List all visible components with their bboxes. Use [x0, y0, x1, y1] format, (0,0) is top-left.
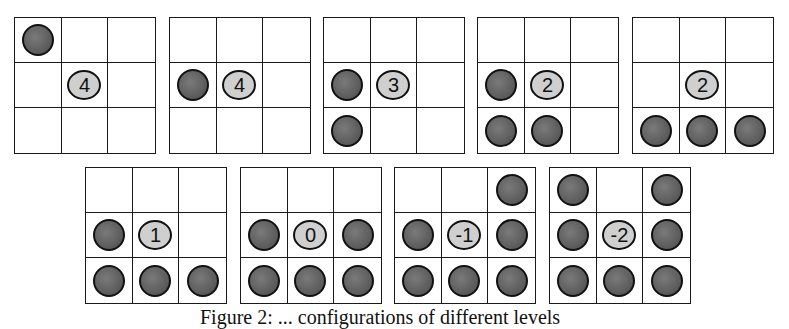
board-grid: -2 — [549, 167, 691, 304]
dark-stone-icon — [496, 265, 528, 297]
board-cell — [525, 108, 572, 153]
board-cell — [417, 63, 464, 108]
board-cell — [263, 18, 310, 63]
dark-stone-icon — [448, 265, 480, 297]
board-cell — [550, 168, 597, 213]
figure-caption: Figure 2: ... configurations of differen… — [200, 306, 560, 329]
board-cell — [633, 108, 680, 153]
board-cell — [680, 18, 727, 63]
dark-stone-icon — [496, 174, 528, 206]
board-cell — [633, 18, 680, 63]
board-cell — [179, 258, 226, 303]
dark-stone-icon — [531, 115, 563, 147]
board-cell — [478, 63, 525, 108]
dark-stone-icon — [248, 219, 280, 251]
board-cell — [263, 63, 310, 108]
board-cell — [643, 213, 690, 258]
board-cell — [62, 108, 109, 153]
level-marker: 3 — [376, 70, 410, 100]
board-cell — [597, 258, 644, 303]
board-cell — [371, 18, 418, 63]
board-cell — [86, 168, 133, 213]
board-cell — [478, 108, 525, 153]
board-cell — [170, 63, 217, 108]
dark-stone-icon — [93, 219, 125, 251]
board-cell — [417, 18, 464, 63]
board-cell — [395, 258, 442, 303]
board-cell — [133, 168, 180, 213]
dark-stone-icon — [485, 115, 517, 147]
board-grid: 4 — [169, 17, 311, 154]
board-cell — [417, 108, 464, 153]
board-cell — [133, 258, 180, 303]
board-cell: 4 — [62, 63, 109, 108]
board-cell — [15, 63, 62, 108]
board-cell — [324, 108, 371, 153]
board-cell — [179, 168, 226, 213]
dark-stone-icon — [331, 69, 363, 101]
board-cell — [726, 18, 773, 63]
board-cell — [334, 168, 381, 213]
board-cell: -1 — [442, 213, 489, 258]
board-cell — [488, 168, 535, 213]
board-cell — [179, 213, 226, 258]
board-cell — [288, 258, 335, 303]
board-cell — [643, 258, 690, 303]
board-grid: 2 — [477, 17, 619, 154]
dark-stone-icon — [651, 174, 683, 206]
board-cell — [62, 18, 109, 63]
board-cell — [633, 63, 680, 108]
board-cell: 0 — [288, 213, 335, 258]
level-marker: 2 — [685, 70, 719, 100]
dark-stone-icon — [557, 174, 589, 206]
dark-stone-icon — [485, 69, 517, 101]
board-grid: 2 — [632, 17, 774, 154]
board-cell — [15, 18, 62, 63]
dark-stone-icon — [342, 265, 374, 297]
board-grid: 1 — [85, 167, 227, 304]
dark-stone-icon — [93, 265, 125, 297]
board-cell — [170, 18, 217, 63]
board-cell — [217, 18, 264, 63]
board-cell: 1 — [133, 213, 180, 258]
board-cell: 2 — [525, 63, 572, 108]
dark-stone-icon — [603, 265, 635, 297]
dark-stone-icon — [331, 115, 363, 147]
level-marker: -1 — [447, 220, 481, 250]
board-cell — [241, 258, 288, 303]
board-cell — [478, 18, 525, 63]
dark-stone-icon — [402, 219, 434, 251]
level-marker: 1 — [138, 220, 172, 250]
board-grid: 4 — [14, 17, 156, 154]
level-marker: 4 — [67, 70, 101, 100]
dark-stone-icon — [139, 265, 171, 297]
board-cell — [324, 63, 371, 108]
board-cell: 2 — [680, 63, 727, 108]
dark-stone-icon — [177, 69, 209, 101]
board-cell — [371, 108, 418, 153]
dark-stone-icon — [248, 265, 280, 297]
board-cell — [488, 213, 535, 258]
board-grid: 3 — [323, 17, 465, 154]
dark-stone-icon — [640, 115, 672, 147]
board-cell — [726, 63, 773, 108]
board-cell — [395, 168, 442, 213]
level-marker: 4 — [222, 70, 256, 100]
dark-stone-icon — [187, 265, 219, 297]
level-marker: -2 — [602, 220, 636, 250]
board-cell — [525, 18, 572, 63]
board-cell — [571, 108, 618, 153]
board-grid: -1 — [394, 167, 536, 304]
board-cell — [488, 258, 535, 303]
board-cell — [442, 168, 489, 213]
board-cell: -2 — [597, 213, 644, 258]
board-cell — [108, 63, 155, 108]
board-grid: 0 — [240, 167, 382, 304]
board-cell — [550, 258, 597, 303]
board-cell — [643, 168, 690, 213]
dark-stone-icon — [686, 115, 718, 147]
board-cell — [86, 258, 133, 303]
dark-stone-icon — [557, 265, 589, 297]
dark-stone-icon — [557, 219, 589, 251]
dark-stone-icon — [734, 115, 766, 147]
